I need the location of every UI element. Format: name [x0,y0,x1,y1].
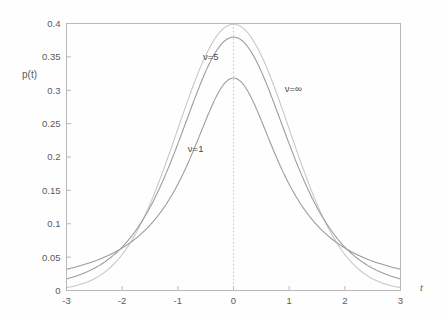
x-tick-label: -1 [174,295,182,306]
x-tick-label: 2 [342,295,347,306]
y-tick-label: 0.3 [47,85,60,96]
curve-annotation: ν=∞ [285,83,302,94]
y-axis-label: p(t) [22,69,37,80]
y-tick-label: 0.25 [42,118,61,129]
y-tick-label: 0.35 [42,51,61,62]
t-distribution-chart: 00.050.10.150.20.250.30.350.4 -3-2-10123… [0,0,444,321]
y-tick-label: 0.2 [47,151,60,162]
x-tick-label: -3 [62,295,70,306]
y-tick-label: 0 [55,285,60,296]
chart-page: 00.050.10.150.20.250.30.350.4 -3-2-10123… [0,0,444,321]
y-tick-label: 0.4 [47,18,60,29]
y-tick-label: 0.05 [42,252,61,263]
y-tick-label: 0.15 [42,185,61,196]
x-tick-label: 3 [398,295,403,306]
x-tick-label: 1 [287,295,292,306]
curve-annotation: ν=1 [188,143,204,154]
x-tick-label: 0 [231,295,236,306]
y-tick-label: 0.1 [47,218,60,229]
curve-annotation: ν=5 [203,51,219,62]
x-tick-label: -2 [118,295,126,306]
